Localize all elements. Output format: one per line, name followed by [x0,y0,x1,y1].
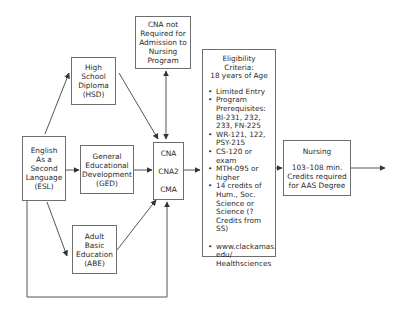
node-text: Basic [85,241,105,250]
node-hsd: High School Diploma (HSD) [71,57,116,105]
arrow-esl-abe [47,202,67,256]
list-item: Program Prerequisites: BI-231, 232, 233,… [216,96,271,130]
node-text-cna2: CNA2 [154,163,183,181]
list-item-link: www.clackamas. edu/ Healthsciences [216,243,271,269]
node-text: Adult [85,232,104,241]
node-text: Eligibility Criteria: [207,55,271,72]
node-text: Admission to [139,38,187,47]
node-text: 103–108 min. [284,163,350,172]
node-text-cna: CNA [154,145,183,163]
node-text: School [81,72,106,81]
list-item: 14 credits of Hum., Soc. Science or Scie… [216,182,271,234]
node-text: Nursing [149,47,178,56]
node-cna-group: CNA CNA2 CMA [153,142,184,200]
node-nursing: Nursing 103–108 min. Credits required fo… [283,140,351,196]
node-text: Language [26,173,62,182]
node-text: Educational [85,161,128,170]
arrow-esl-hsd [45,73,69,134]
node-text: (ESL) [34,182,53,191]
node-text-cma: CMA [154,181,183,199]
node-text: (HSD) [83,90,105,99]
spacer [284,156,350,163]
node-text: 18 years of Age [207,72,271,81]
eligibility-list: Limited Entry Program Prerequisites: BI-… [207,88,271,269]
list-item: CS-120 or exam [216,148,271,165]
node-text: Credits required [284,172,350,181]
eligibility-header: Eligibility Criteria: 18 years of Age [207,55,271,81]
node-eligibility: Eligibility Criteria: 18 years of Age Li… [202,49,276,257]
list-item: MTH-095 or higher [216,165,271,182]
arrow-hsd-cna [119,73,158,139]
node-ged: General Educational Development (GED) [80,145,134,194]
node-text: Required for [140,29,185,38]
node-text: Education [76,250,113,259]
node-text: for AAS Degree [284,181,350,190]
node-text: (ABE) [84,259,105,268]
node-esl: English As a Second Language (ESL) [22,136,66,201]
node-text: Second [30,164,57,173]
node-text: General [92,152,121,161]
node-abe: Adult Basic Education (ABE) [72,225,117,274]
node-text: High [85,63,102,72]
node-text: English [31,146,58,155]
node-text: As a [36,155,52,164]
node-cna-not-required: CNA not Required for Admission to Nursin… [135,16,191,69]
list-item: WR-121, 122, PSY-215 [216,131,271,148]
node-text: CNA not [148,20,178,29]
node-text: Program [147,56,178,65]
arrow-abe-cna [117,200,156,250]
node-text: Diploma [78,81,109,90]
node-text: (GED) [96,179,118,188]
node-text: Development [82,170,132,179]
node-text: Nursing [284,147,350,156]
